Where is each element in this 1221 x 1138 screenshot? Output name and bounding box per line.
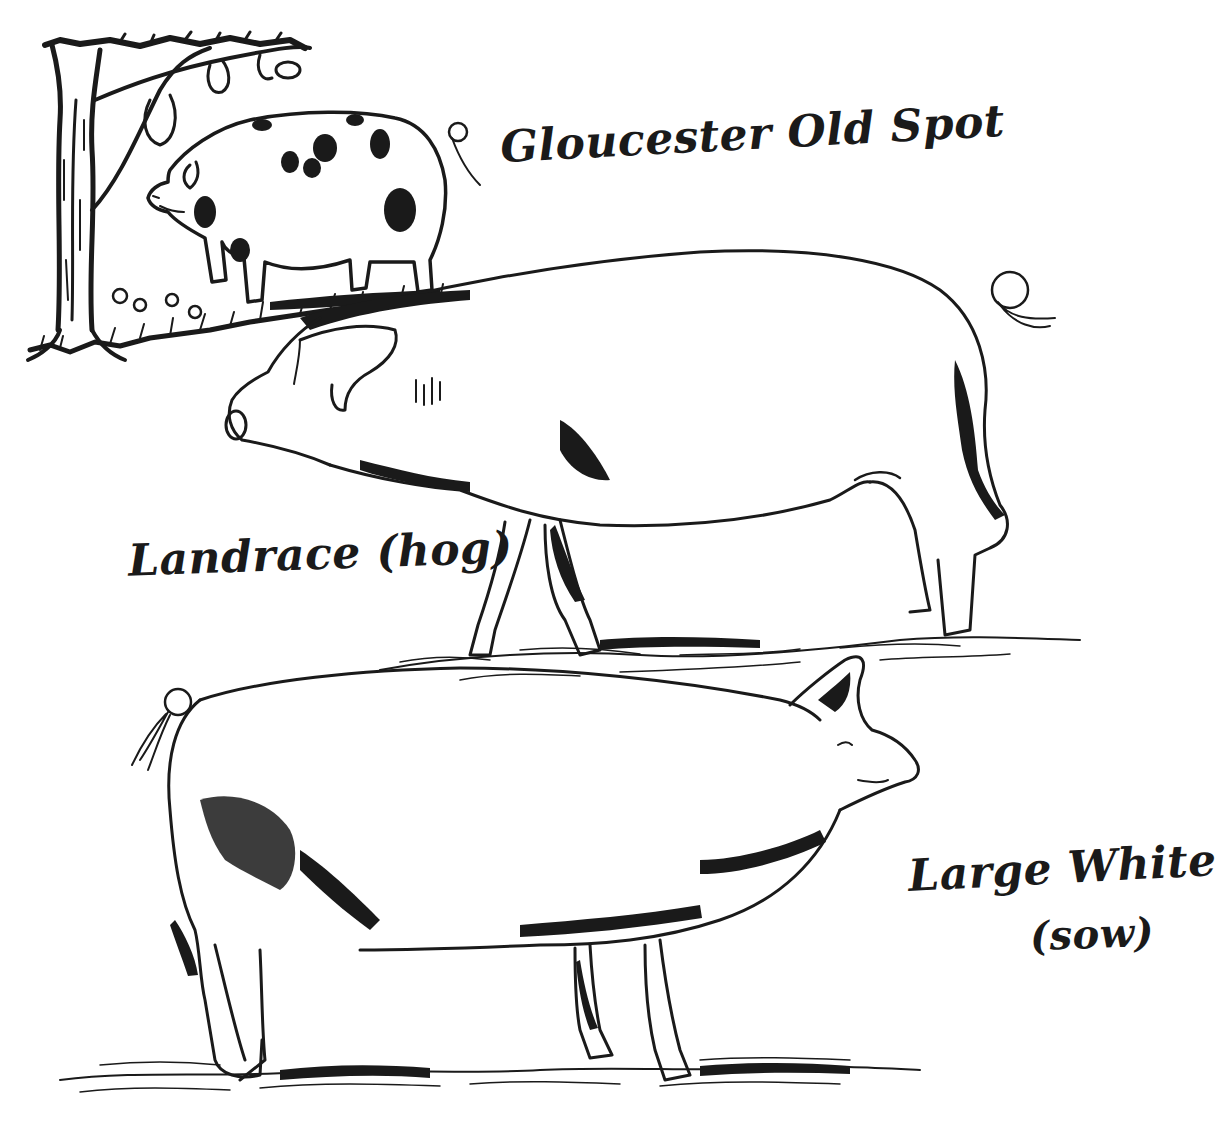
gloucester-old-spot-pig bbox=[148, 112, 480, 302]
label-sow: (sow) bbox=[1029, 908, 1155, 959]
tree-icon bbox=[28, 32, 310, 360]
large-white-sow-pig bbox=[60, 657, 920, 1092]
landrace-hog-pig bbox=[226, 251, 1080, 680]
